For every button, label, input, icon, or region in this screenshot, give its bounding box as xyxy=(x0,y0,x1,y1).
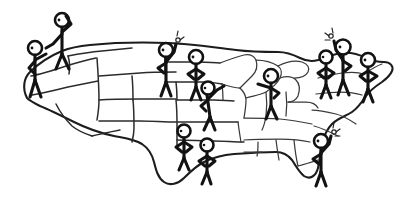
stick-figure-usa-map-illustration: Hand-drawn United States map with stick … xyxy=(0,0,405,207)
figure-head xyxy=(264,69,278,83)
figure-eye xyxy=(180,130,183,133)
figure-eye xyxy=(322,56,325,59)
figure-eye xyxy=(192,56,195,59)
figure-leg-right xyxy=(207,172,211,184)
spark-icon xyxy=(332,123,340,136)
figure-eye xyxy=(364,59,367,62)
figure-head xyxy=(320,51,333,64)
spark-icon xyxy=(176,31,184,44)
figure-arm-left xyxy=(46,34,62,48)
figure-southern-plains-right xyxy=(199,139,215,185)
figure-head xyxy=(189,50,203,64)
figure-head xyxy=(201,139,214,152)
figure-leg-right xyxy=(321,172,326,186)
spark-icon xyxy=(325,28,333,40)
figure-eye xyxy=(204,87,207,90)
figure-eye xyxy=(339,46,342,49)
figure-eye xyxy=(203,144,206,147)
figure-head xyxy=(28,41,42,55)
figure-head xyxy=(178,125,191,138)
figure-head xyxy=(361,53,375,67)
figure-eye xyxy=(58,19,61,22)
figure-eye xyxy=(31,47,34,50)
figure-eye xyxy=(267,75,270,78)
figure-eye xyxy=(162,49,165,52)
figure-eye xyxy=(317,140,320,143)
illustration-canvas xyxy=(0,0,405,207)
